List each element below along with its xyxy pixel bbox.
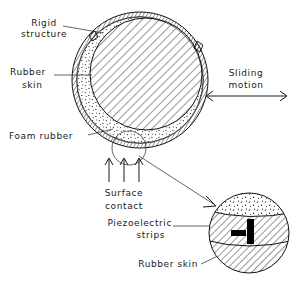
piezo-strip-horizontal — [231, 230, 246, 236]
label-rubber-skin-line2: skin — [22, 80, 43, 90]
leader-detail-connector — [139, 156, 215, 205]
rigid-structure-core — [90, 18, 202, 130]
label-piezoelectric-line1: Piezoelectric — [108, 218, 173, 228]
up-arrow-1 — [105, 158, 113, 182]
sliding-motion-arrow — [206, 91, 287, 101]
label-sliding-motion-line2: motion — [228, 80, 263, 90]
label-detail-rubber-skin: Rubber skin — [138, 259, 198, 269]
up-arrow-3 — [135, 158, 143, 182]
up-arrow-2 — [120, 158, 128, 182]
label-piezoelectric-line2: strips — [137, 230, 165, 240]
detail-inset — [205, 189, 295, 279]
technical-diagram-svg: Rigid structure Rubber skin Foam rubber … — [0, 0, 304, 283]
label-foam-rubber: Foam rubber — [9, 131, 73, 141]
piezo-strip-vertical — [247, 219, 254, 244]
label-rubber-skin-line1: Rubber — [10, 67, 46, 77]
surface-contact-arrows — [105, 158, 143, 182]
label-rigid-structure-line2: structure — [21, 29, 67, 39]
main-assembly — [72, 12, 208, 165]
label-surface-contact-line1: Surface — [105, 188, 144, 198]
label-sliding-motion-line1: Sliding — [229, 68, 264, 78]
figure-canvas: Rigid structure Rubber skin Foam rubber … — [0, 0, 304, 283]
label-surface-contact-line2: contact — [105, 201, 143, 211]
label-rigid-structure-line1: Rigid — [31, 18, 57, 28]
